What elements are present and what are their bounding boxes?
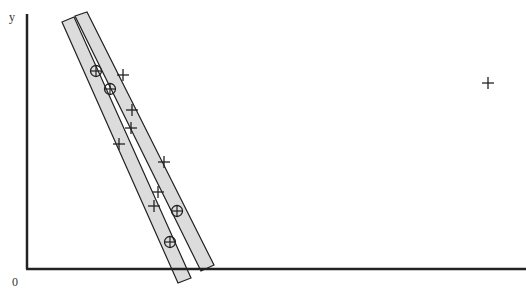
circled-plus-marker: [165, 237, 176, 248]
plus-marker: [482, 77, 494, 89]
y-axis-label: y: [9, 10, 15, 25]
origin-label: 0: [12, 275, 18, 290]
circled-plus-marker: [172, 206, 183, 217]
circled-plus-marker: [105, 84, 116, 95]
scatter-plot: [0, 0, 526, 296]
band-layer: [62, 12, 214, 283]
circled-plus-marker: [91, 66, 102, 77]
figure: y 0: [0, 0, 526, 296]
steep-band: [62, 17, 191, 283]
shallow-band: [75, 12, 214, 271]
figure-caption-cropped: [0, 291, 526, 296]
